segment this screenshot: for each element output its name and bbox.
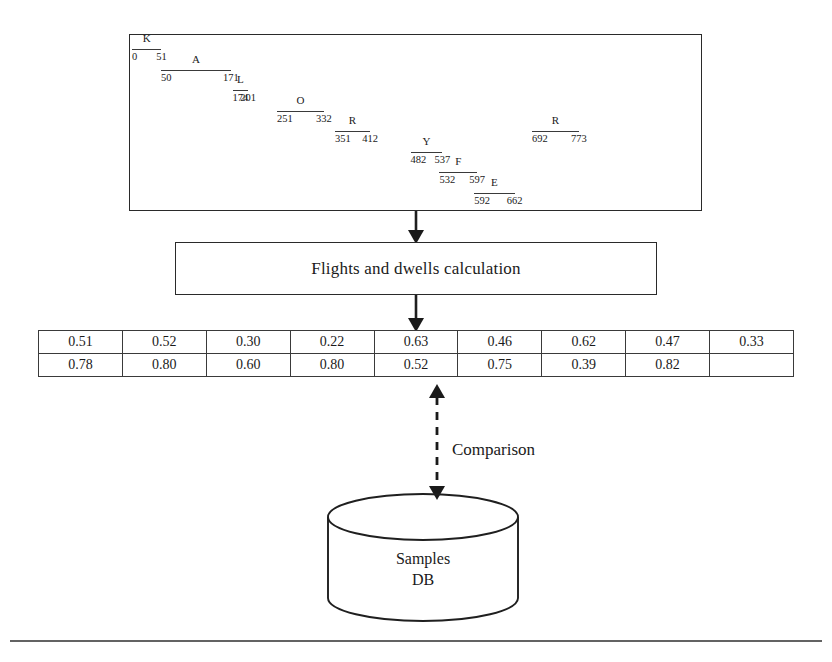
timeline-segment-start: 592 — [474, 195, 490, 206]
table-cell — [710, 354, 794, 377]
table-cell: 0.47 — [626, 331, 710, 354]
database-label-line2: DB — [327, 569, 519, 590]
arrow-timeline-to-process — [408, 211, 424, 244]
timeline-segment-key: R — [552, 115, 559, 126]
timeline-segment-end: 773 — [571, 133, 587, 144]
timeline-segment-line — [277, 111, 324, 112]
timeline-segment-end: 201 — [240, 92, 256, 103]
timeline-segment-line — [411, 152, 443, 153]
table-cell: 0.80 — [122, 354, 206, 377]
timeline-segment-start: 50 — [161, 72, 172, 83]
timeline-segment-line — [335, 131, 370, 132]
timeline-segment: A50171 — [161, 59, 231, 85]
table-cell: 0.46 — [458, 331, 542, 354]
timeline-segment-line — [439, 172, 477, 173]
timeline-segment: E592662 — [474, 182, 514, 208]
table-cell: 0.60 — [206, 354, 290, 377]
timeline-segment-key: F — [455, 156, 461, 167]
comparison-label: Comparison — [452, 440, 535, 460]
table-cell: 0.33 — [710, 331, 794, 354]
table-row: 0.780.800.600.800.520.750.390.82 — [39, 354, 794, 377]
timeline-segment: F532597 — [439, 161, 477, 187]
table-cell: 0.39 — [542, 354, 626, 377]
timeline-segment: R351412 — [335, 120, 370, 146]
table-cell: 0.62 — [542, 331, 626, 354]
table-cell: 0.80 — [290, 354, 374, 377]
diagram-page: K051A50171L174201O251332R351412Y482537F5… — [0, 0, 832, 662]
timeline-segment-start: 532 — [439, 174, 455, 185]
table-cell: 0.75 — [458, 354, 542, 377]
timeline-segment-end: 662 — [507, 195, 523, 206]
timeline-segment-line — [132, 49, 161, 50]
arrow-comparison-double — [429, 384, 445, 500]
table-cell: 0.30 — [206, 331, 290, 354]
timeline-segment-line — [474, 193, 514, 194]
database-label-group: Samples DB — [327, 548, 519, 590]
timeline-segment: K051 — [132, 38, 161, 64]
table-cell: 0.51 — [39, 331, 123, 354]
table-cell: 0.82 — [626, 354, 710, 377]
timeline-segment-line — [161, 70, 231, 71]
flights-dwells-table: 0.510.520.300.220.630.460.620.470.330.78… — [38, 330, 794, 377]
timeline-segment-key: R — [349, 115, 356, 126]
timeline-segment: L174201 — [233, 79, 249, 105]
table-cell: 0.63 — [374, 331, 458, 354]
process-box: Flights and dwells calculation — [175, 242, 657, 295]
arrow-process-to-table — [408, 295, 424, 332]
timeline-segment-key: K — [143, 33, 151, 44]
timeline-segment-end: 332 — [316, 113, 332, 124]
table-cell: 0.52 — [122, 331, 206, 354]
timeline-segment-key: L — [237, 74, 244, 85]
timeline-segment: R692773 — [532, 120, 579, 146]
timeline-segment-key: A — [192, 54, 200, 65]
table-cell: 0.22 — [290, 331, 374, 354]
process-box-label: Flights and dwells calculation — [311, 259, 521, 279]
table-cell: 0.52 — [374, 354, 458, 377]
database-label-line1: Samples — [327, 548, 519, 569]
timeline-segment: O251332 — [277, 100, 324, 126]
timeline-segment-start: 482 — [411, 154, 427, 165]
keystroke-timeline-box: K051A50171L174201O251332R351412Y482537F5… — [129, 34, 702, 211]
timeline-segment-start: 251 — [277, 113, 293, 124]
timeline-segment-start: 692 — [532, 133, 548, 144]
table-row: 0.510.520.300.220.630.460.620.470.33 — [39, 331, 794, 354]
timeline-segment-end: 412 — [362, 133, 378, 144]
timeline-segment-start: 0 — [132, 51, 137, 62]
timeline-segment: Y482537 — [411, 141, 443, 167]
timeline-segment-line — [233, 90, 249, 91]
timeline-segment-key: Y — [423, 136, 431, 147]
table-cell: 0.78 — [39, 354, 123, 377]
timeline-segment-key: O — [296, 95, 304, 106]
timeline-segment-start: 351 — [335, 133, 351, 144]
timeline-segment-line — [532, 131, 579, 132]
timeline-segment-key: E — [491, 177, 498, 188]
